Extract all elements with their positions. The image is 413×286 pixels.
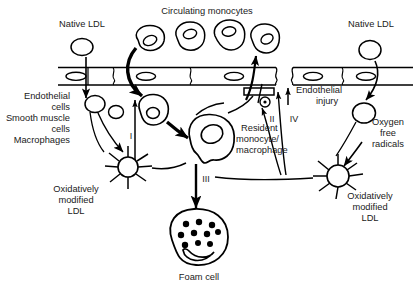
label-ox-ldl-right-line3: LDL (361, 213, 378, 223)
step-number-3: III (202, 174, 210, 184)
step-number-4: IV (290, 114, 299, 124)
label-ox-ldl-left-line3: LDL (67, 206, 84, 216)
circulating-monocytes-group (136, 20, 279, 53)
label-foam-cell: Foam cell (179, 272, 219, 282)
label-oxygen-free-line2: free (380, 128, 396, 138)
intima-ldl-particles-left (85, 96, 124, 153)
oxidized-ldl-left-starburst (105, 146, 186, 189)
label-oxygen-free-line3: radicals (372, 139, 404, 149)
label-oxygen-free-line1: Oxygen (372, 117, 404, 127)
label-ox-ldl-left-line2: modified (58, 195, 93, 205)
step-4-arrow (278, 92, 286, 175)
label-resident-line1: Resident (241, 123, 278, 133)
label-ox-ldl-left-line1: Oxidatively (53, 184, 99, 194)
label-native-ldl-right: Native LDL (348, 19, 394, 29)
label-cells-1: cells (51, 102, 70, 112)
diagram-canvas: Native LDL Circulating monocytes Native … (0, 0, 413, 286)
monocyte-entry-arrow (128, 48, 142, 96)
label-macrophages: Macrophages (14, 135, 71, 145)
foam-cell-lipid-droplets (178, 219, 221, 248)
label-endothelial-injury-line2: injury (316, 96, 339, 106)
label-circulating-monocytes: Circulating monocytes (161, 6, 253, 16)
migrated-monocyte (139, 94, 188, 138)
label-endothelial-cells: Endothelial (24, 91, 70, 101)
atherogenesis-diagram: Native LDL Circulating monocytes Native … (0, 0, 413, 286)
step-number-1: I (130, 131, 133, 141)
label-native-ldl-left: Native LDL (59, 19, 105, 29)
label-ox-ldl-right-line2: modified (352, 202, 387, 212)
label-cells-2: cells (51, 124, 70, 134)
endothelium-band (58, 68, 413, 86)
step-number-2: II (269, 114, 274, 124)
monocyte-exit-arrow (246, 56, 256, 100)
resident-macrophage (189, 114, 234, 163)
label-endothelial-injury-line1: Endothelial (296, 85, 342, 95)
endothelial-nuclei (66, 72, 376, 80)
label-ox-ldl-right-line1: Oxidatively (347, 191, 393, 201)
label-resident-line3: macrophage (236, 145, 288, 155)
label-smooth-muscle-cells: Smooth muscle (6, 113, 70, 123)
label-resident-line2: monocyte/ (236, 134, 279, 144)
foam-cell (170, 209, 228, 265)
